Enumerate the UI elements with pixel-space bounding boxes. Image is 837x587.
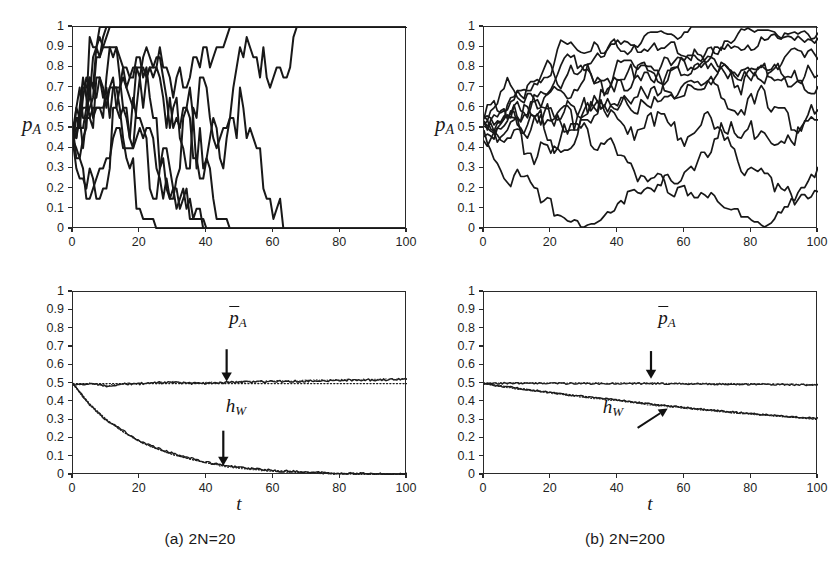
- xtick-label: 80: [743, 482, 757, 494]
- ytick-mark: [479, 309, 483, 310]
- ytick-mark: [479, 167, 483, 168]
- ytick-mark: [479, 364, 483, 365]
- xtick-mark: [616, 474, 617, 478]
- xtick-mark: [138, 474, 139, 478]
- ytick-mark: [68, 86, 72, 87]
- trajectory-line: [73, 27, 407, 140]
- ytick-label: 0.9: [26, 303, 64, 315]
- ytick-label: 0.1: [437, 450, 475, 462]
- ytick-mark: [68, 25, 72, 26]
- xtick-mark: [272, 474, 273, 478]
- ytick-mark: [68, 290, 72, 291]
- ytick-label: 0: [26, 222, 64, 234]
- trajectory-line: [484, 117, 818, 227]
- xtick-label: 80: [743, 236, 757, 248]
- ytick-mark: [479, 327, 483, 328]
- ytick-mark: [479, 25, 483, 26]
- ytick-label: 0.6: [437, 358, 475, 370]
- xtick-mark: [71, 228, 72, 232]
- ytick-label: 0.4: [26, 141, 64, 153]
- ytick-label: 0.6: [26, 101, 64, 113]
- ytick-mark: [68, 207, 72, 208]
- xtick-label: 20: [543, 482, 557, 494]
- ytick-mark: [68, 147, 72, 148]
- xtick-label: 0: [69, 236, 76, 248]
- ytick-mark: [68, 309, 72, 310]
- xtick-label: 100: [807, 482, 828, 494]
- xtick-label: 80: [332, 236, 346, 248]
- ytick-mark: [479, 345, 483, 346]
- ytick-label: 0.7: [437, 81, 475, 93]
- xtick-mark: [405, 228, 406, 232]
- xtick-label: 60: [265, 482, 279, 494]
- ytick-mark: [68, 46, 72, 47]
- ytick-mark: [68, 126, 72, 127]
- ytick-label: 0.5: [437, 121, 475, 133]
- panel-a-bottom-xlabel: t: [236, 493, 241, 515]
- ytick-label: 0.8: [437, 322, 475, 334]
- ytick-label: 0.8: [437, 60, 475, 72]
- simulation-curve: [484, 384, 818, 419]
- ytick-label: 0.4: [26, 395, 64, 407]
- ytick-label: 0: [437, 468, 475, 480]
- panel-b-top-frame: [483, 26, 817, 228]
- ytick-label: 0.9: [437, 303, 475, 315]
- caption-panel-b: (b) 2N=200: [585, 530, 665, 548]
- xtick-mark: [482, 228, 483, 232]
- theory-overlay-curve: [484, 384, 818, 419]
- annotation-arrow-pbar: [646, 351, 656, 379]
- ytick-label: 0.2: [26, 182, 64, 194]
- ytick-mark: [479, 187, 483, 188]
- ytick-label: 0.2: [437, 182, 475, 194]
- ytick-mark: [68, 167, 72, 168]
- ytick-mark: [68, 364, 72, 365]
- ytick-mark: [68, 327, 72, 328]
- simulation-curve: [73, 378, 407, 386]
- ytick-label: 0.8: [26, 322, 64, 334]
- xtick-label: 40: [199, 482, 213, 494]
- ytick-mark: [479, 382, 483, 383]
- ytick-label: 0.4: [437, 141, 475, 153]
- ytick-mark: [479, 419, 483, 420]
- caption-a-text: (a) 2N=20: [164, 530, 235, 547]
- ytick-label: 0.6: [437, 101, 475, 113]
- panel-b-bottom-annot-hw: hW: [603, 396, 623, 420]
- ytick-mark: [479, 106, 483, 107]
- xtick-mark: [816, 228, 817, 232]
- ytick-label: 0.5: [437, 377, 475, 389]
- figure-root: pA 00.10.20.30.40.50.60.70.80.9102040608…: [0, 0, 837, 587]
- ytick-label: 0.3: [437, 161, 475, 173]
- xtick-label: 0: [69, 482, 76, 494]
- panel-b-bottom-frame: [483, 291, 817, 474]
- arrow-head: [646, 370, 656, 379]
- ytick-mark: [68, 437, 72, 438]
- ytick-mark: [479, 66, 483, 67]
- ytick-mark: [479, 437, 483, 438]
- hw-symbol: h: [226, 395, 236, 416]
- annotation-arrow-hw: [638, 408, 668, 427]
- panel-b-bottom-plot-area: [484, 292, 818, 475]
- panel-a-top-plot-area: [73, 27, 407, 229]
- xtick-label: 40: [610, 482, 624, 494]
- panel-a-bottom-annot-hw: hW: [226, 395, 246, 419]
- pbar-subscript-b: A: [668, 315, 676, 330]
- xtick-label: 60: [676, 482, 690, 494]
- panel-a-top-frame: [72, 26, 406, 228]
- ytick-label: 0.3: [437, 413, 475, 425]
- ytick-mark: [68, 187, 72, 188]
- ytick-label: 0.3: [26, 161, 64, 173]
- ytick-label: 0.7: [26, 81, 64, 93]
- xtick-mark: [339, 474, 340, 478]
- ytick-label: 0: [26, 468, 64, 480]
- pbar-subscript: A: [239, 315, 247, 330]
- ytick-mark: [479, 86, 483, 87]
- ytick-label: 0.3: [26, 413, 64, 425]
- xtick-label: 20: [543, 236, 557, 248]
- ytick-label: 0.9: [26, 40, 64, 52]
- hw-subscript: W: [235, 403, 246, 418]
- hw-subscript-b: W: [612, 404, 623, 419]
- ytick-label: 1: [26, 285, 64, 297]
- ytick-mark: [68, 400, 72, 401]
- ytick-label: 0.4: [437, 395, 475, 407]
- ytick-mark: [68, 455, 72, 456]
